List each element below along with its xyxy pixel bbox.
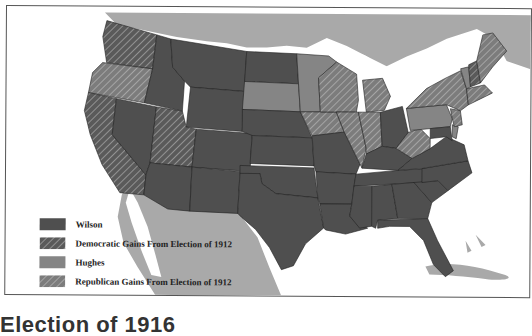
legend-item-democratic-gains: Democratic Gains From Election of 1912: [39, 233, 232, 253]
democratic-gains-swatch-icon: [40, 237, 66, 249]
legend-label: Wilson: [76, 219, 103, 229]
state-new-jersey: [450, 109, 462, 127]
state-new-mexico: [190, 167, 240, 213]
state-kansas: [250, 135, 314, 165]
state-south-dakota: [242, 81, 300, 111]
legend-label: Hughes: [75, 257, 104, 267]
legend-item-wilson: Wilson: [40, 214, 233, 234]
state-wyoming: [186, 87, 244, 131]
legend-item-hughes: Hughes: [39, 252, 232, 272]
state-new-york: [406, 70, 468, 110]
legend-label: Democratic Gains From Election of 1912: [76, 238, 233, 249]
legend-label: Republican Gains From Election of 1912: [75, 276, 231, 287]
state-maryland: [430, 127, 452, 141]
state-delaware: [452, 125, 458, 139]
legend-item-republican-gains: Republican Gains From Election of 1912: [39, 271, 232, 291]
bahamas: [465, 235, 485, 253]
wilson-swatch-icon: [40, 218, 66, 230]
map-title: Election of 1916: [0, 312, 176, 336]
republican-gains-swatch-icon: [39, 275, 65, 287]
hughes-swatch-icon: [39, 256, 65, 268]
state-north-dakota: [245, 51, 299, 83]
map-legend: Wilson Democratic Gains From Election of…: [39, 214, 232, 291]
state-arkansas: [316, 172, 356, 204]
state-southern-new-england: [466, 85, 492, 105]
state-florida: [377, 218, 453, 276]
state-pennsylvania: [406, 104, 452, 130]
state-colorado: [192, 129, 252, 171]
map-frame: Wilson Democratic Gains From Election of…: [4, 5, 532, 298]
